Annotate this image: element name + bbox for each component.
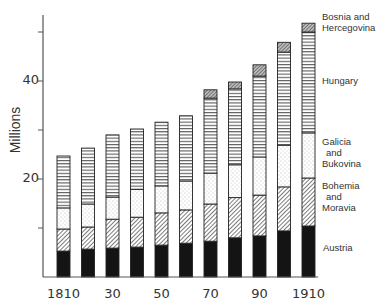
- segment-galicia-and-bukovina: [131, 189, 144, 217]
- segment-hungary: [82, 148, 95, 204]
- segment-galicia-and-bukovina: [302, 133, 315, 178]
- segment-austria: [180, 243, 193, 277]
- segment-hungary: [253, 76, 266, 157]
- bar-1840: [131, 129, 144, 277]
- legend-bohemia: Bohemia and Moravia: [322, 180, 362, 213]
- legend-galicia: Galicia and Bukovina: [322, 136, 362, 169]
- x-tick-label: 70: [202, 286, 219, 301]
- segment-hungary: [302, 32, 315, 133]
- bar-1820: [82, 148, 95, 277]
- segment-hungary: [278, 52, 291, 145]
- bar-1880: [229, 82, 242, 277]
- segment-bohemia-and-moravia: [229, 198, 242, 238]
- segment-galicia-and-bukovina: [57, 208, 70, 229]
- bar-1910: [302, 23, 315, 277]
- segment-bohemia-and-moravia: [180, 210, 193, 243]
- segment-galicia-and-bukovina: [204, 173, 217, 204]
- y-axis-label: Millions: [7, 107, 23, 154]
- segment-austria: [131, 247, 144, 277]
- segment-galicia-and-bukovina: [253, 157, 266, 195]
- segment-galicia-and-bukovina: [82, 204, 95, 227]
- bar-1860: [180, 116, 193, 277]
- segment-hungary: [180, 116, 193, 181]
- segment-austria: [155, 245, 168, 277]
- segment-bosnia-and-hercegovina: [229, 82, 242, 89]
- x-tick-label: 1810: [47, 286, 80, 301]
- segment-bohemia-and-moravia: [278, 187, 291, 231]
- segment-bohemia-and-moravia: [155, 213, 168, 245]
- segment-hungary: [155, 122, 168, 186]
- segment-bohemia-and-moravia: [106, 219, 119, 248]
- bar-1890: [253, 65, 266, 277]
- x-tick-label: 50: [153, 286, 170, 301]
- segment-austria: [106, 248, 119, 277]
- segment-hungary: [106, 135, 119, 197]
- segment-bohemia-and-moravia: [204, 204, 217, 241]
- y-tick-label-20: 20: [22, 170, 39, 185]
- y-axis: [38, 15, 43, 277]
- segment-bohemia-and-moravia: [131, 217, 144, 247]
- bar-1830: [106, 135, 119, 277]
- segment-bosnia-and-hercegovina: [253, 65, 266, 76]
- segment-austria: [302, 226, 315, 277]
- segment-hungary: [204, 98, 217, 173]
- legend: Bosnia and Hercegovina Hungary Galicia a…: [322, 11, 376, 253]
- segment-bohemia-and-moravia: [253, 195, 266, 236]
- segment-galicia-and-bukovina: [155, 186, 168, 213]
- bar-1900: [278, 42, 291, 277]
- segment-austria: [278, 231, 291, 277]
- x-tick-label: 30: [104, 286, 121, 301]
- legend-bosnia: Bosnia and Hercegovina: [322, 11, 376, 33]
- bar-1850: [155, 122, 168, 277]
- segment-galicia-and-bukovina: [180, 181, 193, 210]
- stacked-bar-chart: 40 20 Millions 1810305070901910 Bosnia a…: [0, 0, 382, 306]
- segment-hungary: [131, 129, 144, 189]
- segment-austria: [204, 241, 217, 277]
- bar-1810: [57, 156, 70, 277]
- y-tick-label-40: 40: [22, 72, 39, 87]
- segment-austria: [253, 236, 266, 277]
- segment-bohemia-and-moravia: [57, 229, 70, 251]
- segment-galicia-and-bukovina: [278, 145, 291, 187]
- segment-bohemia-and-moravia: [302, 178, 315, 226]
- segment-bosnia-and-hercegovina: [278, 42, 291, 52]
- x-tick-label: 1910: [292, 286, 325, 301]
- segment-austria: [57, 251, 70, 277]
- bar-1870: [204, 90, 217, 277]
- legend-austria: Austria: [323, 242, 353, 253]
- segment-hungary: [229, 89, 242, 165]
- segment-bohemia-and-moravia: [82, 227, 95, 249]
- x-tick-label: 90: [251, 286, 268, 301]
- bars-group: [57, 23, 315, 277]
- segment-bosnia-and-hercegovina: [302, 23, 315, 32]
- legend-hungary: Hungary: [322, 75, 358, 86]
- segment-austria: [82, 249, 95, 277]
- segment-galicia-and-bukovina: [229, 165, 242, 198]
- segment-bosnia-and-hercegovina: [204, 90, 217, 98]
- segment-austria: [229, 238, 242, 277]
- segment-galicia-and-bukovina: [106, 197, 119, 219]
- segment-hungary: [57, 156, 70, 208]
- x-tick-labels: 1810305070901910: [47, 286, 325, 301]
